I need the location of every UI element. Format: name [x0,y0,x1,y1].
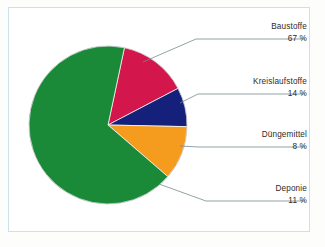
callout-duengemittel-category: Düngemittel [262,130,307,141]
callout-deponie: Deponie 11 % [275,184,307,207]
callout-kreislaufstoffe: Kreislaufstoffe 14 % [253,77,307,100]
pie-slices [29,46,187,204]
callout-deponie-value: 11 % [275,195,307,206]
callout-deponie-category: Deponie [275,184,307,195]
pie-chart-figure: Baustoffe 67 % Kreislaufstoffe 14 % Düng… [0,0,325,247]
callout-duengemittel-value: 8 % [262,141,307,152]
callout-baustoffe-value: 67 % [271,33,307,44]
callout-baustoffe: Baustoffe 67 % [271,22,307,45]
callout-baustoffe-category: Baustoffe [271,22,307,33]
callout-kreislaufstoffe-category: Kreislaufstoffe [253,77,307,88]
callout-kreislaufstoffe-value: 14 % [253,88,307,99]
callout-duengemittel: Düngemittel 8 % [262,130,307,153]
